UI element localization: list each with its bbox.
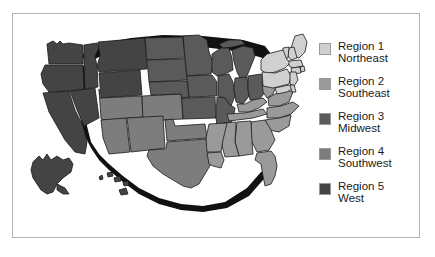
figure-frame: Region 1 Northeast Region 2 Southeast Re…	[12, 13, 420, 238]
state-polygons	[31, 34, 307, 195]
state-wisconsin	[212, 48, 233, 76]
state-alaska	[31, 154, 73, 194]
legend-label-region-4: Region 4 Southwest	[338, 145, 392, 170]
state-hawaii-1	[99, 175, 103, 180]
state-hawaii-4	[123, 181, 129, 186]
legend-swatch-region-1	[319, 43, 331, 55]
state-hawaii-5	[119, 188, 128, 195]
state-hawaii-2	[107, 172, 113, 177]
legend-item-region-4[interactable]: Region 4 Southwest	[319, 145, 419, 180]
state-hawaii-3	[114, 176, 121, 182]
state-montana	[97, 38, 147, 72]
state-kansas	[182, 97, 216, 119]
legend-label-region-5-line2: West	[338, 192, 384, 204]
state-wyoming	[99, 70, 142, 98]
legend-swatch-region-2	[319, 78, 331, 90]
legend-swatch-region-3	[319, 113, 331, 125]
state-arizona	[101, 118, 130, 154]
map-legend: Region 1 Northeast Region 2 Southeast Re…	[319, 40, 419, 215]
legend-item-region-3[interactable]: Region 3 Midwest	[319, 110, 419, 145]
state-oregon	[41, 65, 84, 92]
legend-label-region-2-line1: Region 2	[338, 75, 384, 87]
state-north-dakota	[145, 37, 185, 60]
legend-label-region-2: Region 2 Southeast	[338, 75, 390, 100]
legend-label-region-3: Region 3 Midwest	[338, 110, 384, 135]
state-washington	[47, 41, 83, 64]
map-area	[13, 14, 313, 237]
legend-label-region-4-line1: Region 4	[338, 145, 384, 157]
region-northeast	[261, 34, 307, 94]
legend-label-region-3-line2: Midwest	[338, 122, 384, 134]
legend-label-region-1: Region 1 Northeast	[338, 40, 388, 65]
legend-label-region-4-line2: Southwest	[338, 157, 392, 169]
legend-item-region-5[interactable]: Region 5 West	[319, 180, 419, 215]
united-states-regions-map	[13, 14, 313, 237]
legend-label-region-2-line2: Southeast	[338, 87, 390, 99]
state-oklahoma	[165, 119, 207, 141]
legend-swatch-region-4	[319, 148, 331, 160]
legend-label-region-3-line1: Region 3	[338, 110, 384, 122]
legend-label-region-5-line1: Region 5	[338, 180, 384, 192]
state-delaware	[290, 85, 296, 92]
state-indiana	[234, 77, 249, 104]
legend-label-region-1-line2: Northeast	[338, 52, 388, 64]
legend-swatch-region-5	[319, 183, 331, 195]
state-new-jersey	[290, 72, 298, 86]
legend-label-region-5: Region 5 West	[338, 180, 384, 205]
legend-label-region-1-line1: Region 1	[338, 40, 384, 52]
legend-item-region-2[interactable]: Region 2 Southeast	[319, 75, 419, 110]
state-new-mexico	[127, 116, 165, 152]
state-south-dakota	[147, 59, 187, 82]
state-iowa	[187, 75, 217, 97]
legend-item-region-1[interactable]: Region 1 Northeast	[319, 40, 419, 75]
